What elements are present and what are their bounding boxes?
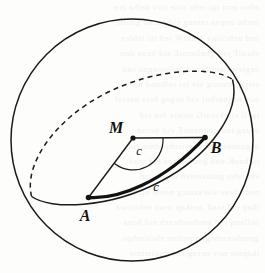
label-central-angle: c [136,144,142,158]
great-circle-solid-arc [32,80,234,205]
label-a: A [79,207,91,224]
radius-segment-ma [89,138,134,198]
sphere-diagram-svg: M A B c c [0,0,265,273]
point-b-dot [202,135,208,141]
point-m-dot [130,135,135,140]
point-a-dot [86,195,92,201]
label-m: M [108,119,124,136]
great-circle-dashed-arc [30,71,232,196]
radius-segment-mb [133,138,205,139]
sphere-diagram: ednu asm igt rehc snie nov nelha zre ner… [0,0,265,273]
label-arc-length: c [153,180,159,194]
label-b: B [210,139,222,156]
